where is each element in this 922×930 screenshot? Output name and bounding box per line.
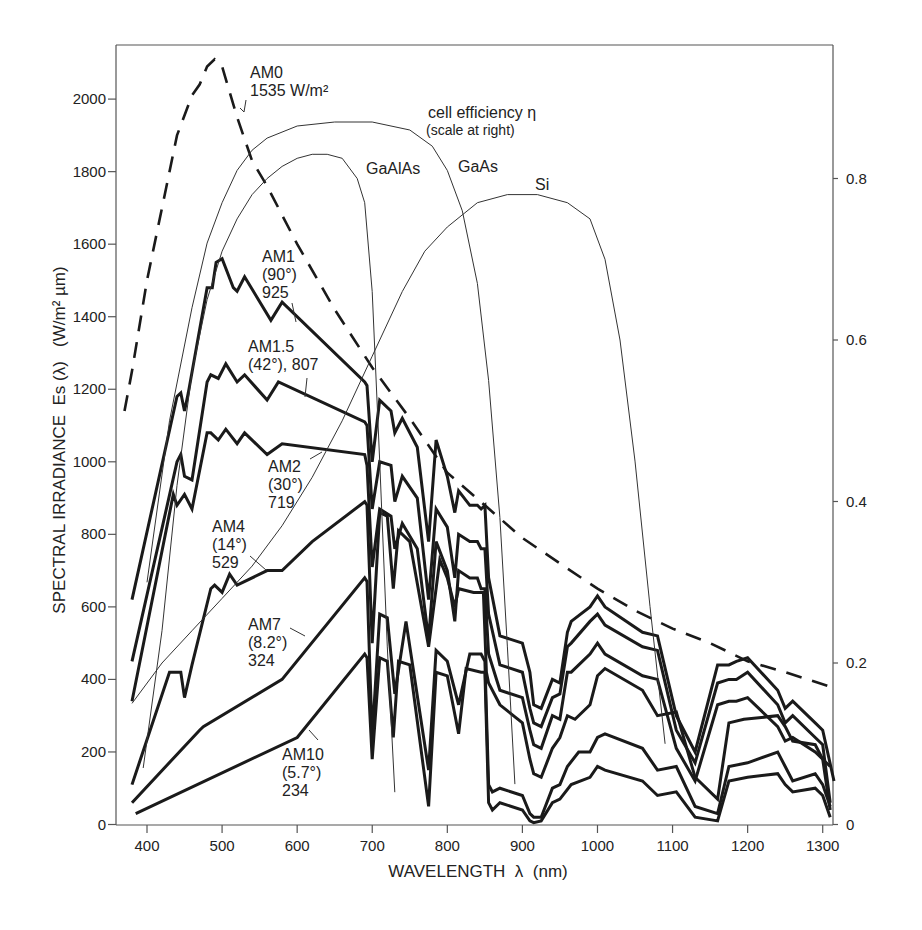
efficiency-title: cell efficiency η	[428, 104, 536, 121]
series-label-line: AM4	[212, 518, 245, 535]
series-label-line: AM2	[268, 458, 301, 475]
label-leader-line	[290, 628, 305, 636]
series-label-line: GaAs	[458, 158, 498, 175]
y-tick-label: 1800	[73, 163, 106, 180]
x-axis-title: WAVELENGTH λ (nm)	[388, 862, 567, 881]
efficiency-subtitle: (scale at right)	[426, 122, 515, 138]
series-label-gaalas: GaAlAs	[366, 160, 420, 177]
y2-tick-label: 0	[846, 816, 854, 833]
series-label-line: (14°)	[212, 536, 247, 553]
label-leader-line	[310, 452, 322, 459]
y-tick-label: 1200	[73, 380, 106, 397]
label-leader-line	[309, 730, 318, 740]
x-tick-label: 900	[510, 837, 535, 854]
series-label-line: 234	[282, 782, 309, 799]
y2-tick-label: 0.4	[846, 493, 867, 510]
series-label-line: (90°)	[262, 266, 297, 283]
y-tick-label: 1600	[73, 235, 106, 252]
series-label-line: 925	[262, 284, 289, 301]
y-tick-label: 600	[81, 598, 106, 615]
series-label-line: AM10	[282, 746, 324, 763]
series-label-line: 1535 W/m²	[250, 82, 329, 99]
y2-tick-label: 0.6	[846, 331, 867, 348]
series-label-line: AM1.5	[248, 338, 294, 355]
series-label-line: Si	[535, 176, 549, 193]
y-tick-label: 1400	[73, 308, 106, 325]
x-tick-label: 400	[134, 837, 159, 854]
x-tick-label: 1100	[656, 837, 688, 854]
y-axis-title: SPECTRAL IRRADIANCE Es (λ) (W/m² µm)	[50, 266, 69, 613]
label-leader-line	[240, 100, 246, 112]
series-label-am0: AM01535 W/m²	[240, 64, 329, 112]
x-tick-label: 600	[285, 837, 310, 854]
series-label-line: (30°)	[268, 476, 303, 493]
y-tick-label: 800	[81, 525, 106, 542]
series-label-gaas: GaAs	[458, 158, 498, 175]
series-label-line: (8.2°)	[248, 634, 287, 651]
y-tick-label: 200	[81, 743, 106, 760]
series-line-am7	[132, 578, 830, 817]
x-tick-label: 1300	[806, 837, 839, 854]
series-label-line: 719	[268, 494, 295, 511]
x-tick-label: 500	[210, 837, 235, 854]
x-tick-label: 1200	[731, 837, 764, 854]
x-tick-label: 1000	[581, 837, 614, 854]
series-label-am4: AM4(14°)529	[212, 518, 266, 571]
series-label-line: AM0	[250, 64, 283, 81]
y2-tick-label: 0.2	[846, 654, 867, 671]
y-tick-label: 1000	[73, 453, 106, 470]
series-label-line: 529	[212, 554, 239, 571]
x-ticks: 4005006007008009001000110012001300	[134, 825, 839, 854]
y2-ticks: 00.20.40.60.8	[833, 170, 867, 833]
y-tick-label: 400	[81, 670, 106, 687]
series-label-si: Si	[535, 176, 549, 193]
series-label-line: AM1	[262, 248, 295, 265]
x-tick-label: 700	[360, 837, 385, 854]
x-tick-label: 800	[435, 837, 460, 854]
series-label-am2: AM2(30°)719	[268, 452, 322, 511]
spectral-irradiance-chart: 4005006007008009001000110012001300 02004…	[0, 0, 922, 930]
series-label-line: GaAlAs	[366, 160, 420, 177]
series-label-am1-5: AM1.5(42°), 807	[248, 338, 319, 397]
series-label-line: AM7	[248, 616, 281, 633]
y-tick-label: 2000	[73, 90, 106, 107]
annotations: cell efficiency η (scale at right)	[426, 104, 536, 138]
series-label-line: (42°), 807	[248, 356, 319, 373]
series-label-line: (5.7°)	[282, 764, 321, 781]
y-ticks: 0200400600800100012001400160018002000	[73, 90, 116, 832]
y2-tick-label: 0.8	[846, 170, 867, 187]
y-tick-label: 0	[98, 816, 106, 833]
series-label-line: 324	[248, 652, 275, 669]
